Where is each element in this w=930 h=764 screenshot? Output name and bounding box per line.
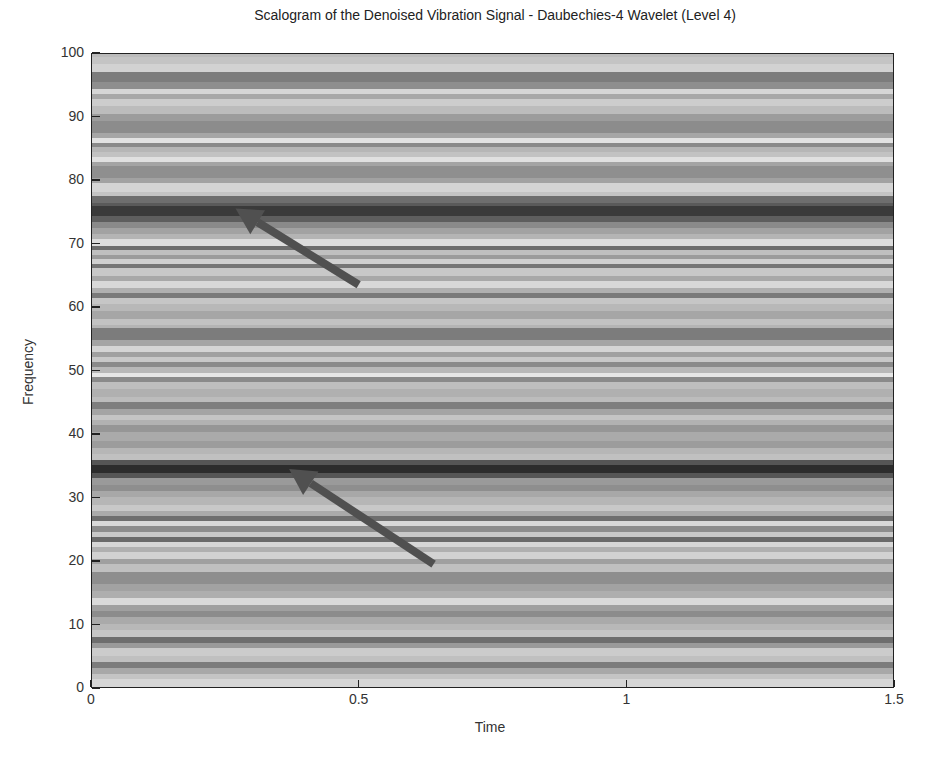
y-tick-label: 10 xyxy=(44,616,84,632)
y-tick-mark xyxy=(92,624,100,626)
frequency-band xyxy=(92,121,893,134)
x-tick-label: 1 xyxy=(622,691,630,707)
x-tick-label: 1.5 xyxy=(884,691,903,707)
y-tick-label: 80 xyxy=(44,171,84,187)
y-tick-label: 0 xyxy=(44,679,84,695)
y-axis-label: Frequency xyxy=(20,339,36,405)
y-tick-label: 60 xyxy=(44,298,84,314)
x-tick-label: 0.5 xyxy=(349,691,368,707)
y-tick-label: 100 xyxy=(44,44,84,60)
y-tick-label: 50 xyxy=(44,362,84,378)
frequency-band xyxy=(92,328,893,341)
y-tick-mark xyxy=(92,52,100,54)
chart-title: Scalogram of the Denoised Vibration Sign… xyxy=(0,7,930,23)
y-tick-label: 70 xyxy=(44,235,84,251)
x-tick-mark xyxy=(893,680,895,687)
frequency-band xyxy=(92,572,893,585)
y-tick-mark xyxy=(92,497,100,499)
frequency-band xyxy=(92,166,893,179)
x-tick-mark xyxy=(90,680,92,687)
y-tick-label: 30 xyxy=(44,489,84,505)
y-tick-mark xyxy=(92,116,100,118)
x-tick-mark xyxy=(626,680,628,687)
y-tick-mark xyxy=(92,370,100,372)
y-tick-label: 90 xyxy=(44,108,84,124)
y-tick-mark xyxy=(92,179,100,181)
y-tick-label: 40 xyxy=(44,425,84,441)
y-tick-mark xyxy=(92,687,100,689)
x-axis-label: Time xyxy=(475,719,506,735)
x-tick-mark xyxy=(358,680,360,687)
scalogram-plot-area xyxy=(91,53,894,688)
y-tick-mark xyxy=(92,560,100,562)
y-tick-label: 20 xyxy=(44,552,84,568)
frequency-band xyxy=(92,72,893,83)
frequency-band xyxy=(92,679,893,688)
y-tick-mark xyxy=(92,433,100,435)
frequency-band xyxy=(92,206,893,216)
y-tick-mark xyxy=(92,306,100,308)
y-tick-mark xyxy=(92,243,100,245)
x-tick-label: 0 xyxy=(87,691,95,707)
